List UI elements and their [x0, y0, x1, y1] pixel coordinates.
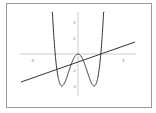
x-tick-label: -4 [30, 58, 34, 63]
chart-plot: -4 4 4 2 -2 -4 [0, 0, 156, 113]
y-tick-label: -2 [72, 68, 76, 73]
x-tick-label: 4 [122, 58, 125, 63]
y-tick-label: 4 [73, 20, 76, 25]
y-tick-label: 2 [73, 36, 76, 41]
y-tick-label: -4 [72, 84, 76, 89]
